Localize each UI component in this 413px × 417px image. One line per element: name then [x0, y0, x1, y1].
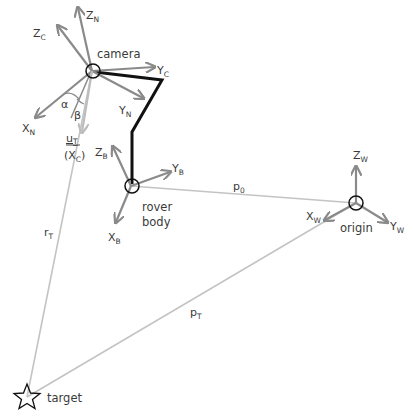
- p-t-label: pT: [190, 306, 202, 321]
- alpha-label: α: [61, 98, 68, 111]
- z-n-label: ZN: [86, 9, 99, 24]
- y-w-label: YW: [389, 220, 405, 235]
- camera-label: camera: [97, 47, 140, 61]
- z-w-label: ZW: [353, 149, 369, 164]
- target-label: target: [47, 391, 82, 405]
- rover-label: rover: [142, 200, 172, 214]
- diagram-canvas: camera ZC ZN YC YN XN α β uT (XC) ZB YB …: [0, 0, 413, 417]
- z-b-label: ZB: [95, 146, 108, 161]
- y-b-label: YB: [171, 162, 184, 177]
- y-c-axis-arrow: [92, 67, 154, 71]
- p-0-label: p0: [233, 180, 245, 195]
- y-n-label: YN: [118, 104, 131, 119]
- y-c-label: YC: [156, 64, 169, 79]
- x-w-axis-arrow: [325, 203, 356, 220]
- coordinate-frames-diagram: camera ZC ZN YC YN XN α β uT (XC) ZB YB …: [0, 0, 413, 417]
- body-label: body: [142, 215, 171, 229]
- r-t-label: rT: [44, 226, 54, 241]
- u-t-label: uT: [66, 132, 78, 146]
- p-t-line: [27, 203, 356, 397]
- x-b-label: XB: [108, 231, 121, 246]
- origin-label: origin: [340, 221, 373, 235]
- z-c-label: ZC: [33, 27, 46, 42]
- y-b-axis-arrow: [131, 172, 170, 186]
- x-w-label: XW: [306, 210, 322, 225]
- world-frame-axes: [325, 167, 387, 222]
- beta-label: β: [74, 109, 81, 122]
- x-n-label: XN: [22, 122, 35, 137]
- x-c-label: (XC): [64, 149, 85, 164]
- camera-frame-axes: [36, 8, 154, 132]
- y-w-axis-arrow: [356, 203, 387, 222]
- r-t-line: [27, 71, 92, 397]
- rover-arm: [95, 72, 162, 184]
